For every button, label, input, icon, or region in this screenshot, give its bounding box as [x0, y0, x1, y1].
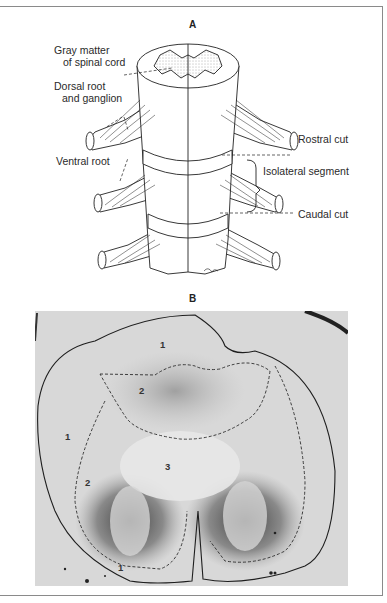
rostral-cut-label: Rostral cut [298, 133, 348, 145]
region-label-1-ventral: 1 [118, 562, 123, 573]
isolateral-segment-label: Isolateral segment [263, 165, 349, 177]
dorsal-root-label-2: and ganglion [62, 92, 122, 104]
spinal-cord-micrograph: 1 2 1 2 3 1 [35, 311, 348, 586]
region-label-2-dorsal: 2 [139, 385, 144, 396]
region-label-1-lateral: 1 [65, 431, 70, 442]
region-label-1-dorsal: 1 [160, 339, 165, 350]
gray-matter-label-2: of spinal cord [63, 56, 125, 68]
panel-b-label: B [189, 293, 196, 304]
region-label-3-center: 3 [165, 461, 170, 472]
ventral-root-label: Ventral root [56, 155, 110, 167]
region-label-2-lateral: 2 [85, 477, 90, 488]
caudal-cut-label: Caudal cut [298, 208, 348, 220]
gray-matter-label-1: Gray matter [54, 44, 109, 56]
dorsal-root-label-1: Dorsal root [54, 80, 105, 92]
